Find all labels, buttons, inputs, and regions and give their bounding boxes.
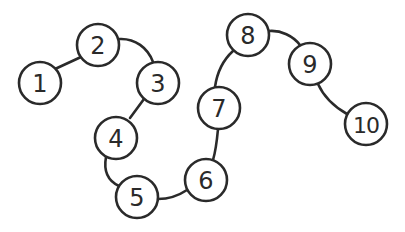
node-label: 2 xyxy=(90,32,105,60)
node-label: 4 xyxy=(108,125,123,153)
connector-2-3 xyxy=(119,39,153,62)
node-2: 2 xyxy=(77,24,119,66)
node-1: 1 xyxy=(19,62,61,104)
connector-4-5 xyxy=(105,157,119,186)
node-5: 5 xyxy=(116,176,158,218)
connector-5-6 xyxy=(158,190,187,199)
node-7: 7 xyxy=(198,87,240,129)
connector-1-2 xyxy=(55,57,81,69)
node-label: 5 xyxy=(129,184,144,212)
numbered-path-diagram: 1 2 3 4 5 6 7 8 xyxy=(0,0,405,232)
node-3: 3 xyxy=(137,62,179,104)
connector-7-8 xyxy=(215,51,233,87)
nodes: 1 2 3 4 5 6 7 8 xyxy=(19,14,387,218)
connector-9-10 xyxy=(318,84,347,114)
node-label: 10 xyxy=(353,113,379,138)
node-6: 6 xyxy=(185,159,227,201)
node-8: 8 xyxy=(227,14,269,56)
connector-3-4 xyxy=(130,99,144,118)
node-10: 10 xyxy=(345,103,387,145)
node-label: 1 xyxy=(32,70,47,98)
connector-6-7 xyxy=(213,129,218,160)
node-label: 3 xyxy=(150,70,165,98)
node-9: 9 xyxy=(289,43,331,85)
node-label: 9 xyxy=(302,51,317,79)
node-label: 6 xyxy=(198,167,213,195)
connector-8-9 xyxy=(269,31,300,45)
node-label: 7 xyxy=(211,95,226,123)
node-4: 4 xyxy=(95,117,137,159)
node-label: 8 xyxy=(240,22,255,50)
